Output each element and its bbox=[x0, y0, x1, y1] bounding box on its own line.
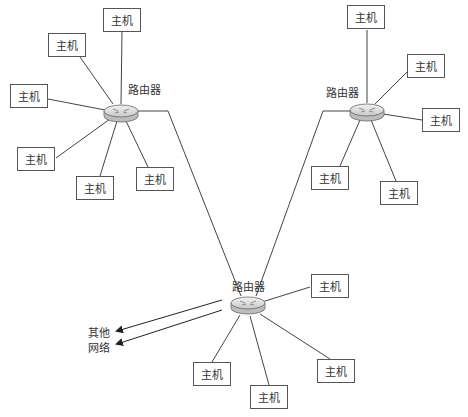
router-icon-bottom bbox=[231, 297, 265, 314]
host-box: 主机 bbox=[48, 33, 86, 57]
host-box: 主机 bbox=[136, 167, 174, 191]
router-icon-left bbox=[104, 105, 138, 122]
router-label-right: 路由器 bbox=[326, 84, 359, 100]
router-label-left: 路由器 bbox=[128, 81, 161, 97]
host-box: 主机 bbox=[317, 359, 355, 383]
host-box: 主机 bbox=[347, 5, 385, 29]
other-network-label-1: 其他 bbox=[88, 324, 110, 340]
host-box: 主机 bbox=[76, 176, 114, 200]
router-icon-right bbox=[350, 104, 384, 121]
host-box: 主机 bbox=[422, 108, 460, 132]
host-box: 主机 bbox=[17, 147, 55, 171]
host-box: 主机 bbox=[311, 274, 349, 298]
connection-lines bbox=[0, 0, 468, 417]
host-box: 主机 bbox=[193, 362, 231, 386]
host-box: 主机 bbox=[380, 181, 418, 205]
host-box: 主机 bbox=[407, 54, 445, 78]
other-network-label-2: 网络 bbox=[88, 339, 110, 355]
host-box: 主机 bbox=[10, 84, 48, 108]
router-label-bottom: 路由器 bbox=[232, 278, 265, 294]
host-box: 主机 bbox=[250, 385, 288, 409]
host-box: 主机 bbox=[103, 8, 141, 32]
host-box: 主机 bbox=[311, 166, 349, 190]
